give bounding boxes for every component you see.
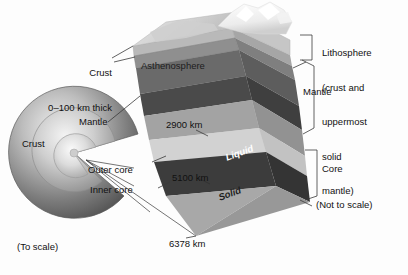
- not-to-scale-label: (Not to scale): [316, 199, 373, 211]
- outer-core-label: Outer core: [88, 164, 133, 176]
- crust-thickness-line2: 0–100 km thick: [8, 102, 112, 114]
- inner-core-label: Inner core: [90, 184, 133, 196]
- core-right-label: Core: [322, 163, 343, 175]
- lithosphere-line5: mantle): [322, 185, 406, 197]
- lithosphere-line3: uppermost: [322, 116, 406, 128]
- asthenosphere-label: Asthenosphere: [141, 60, 205, 71]
- mantle-right-label: Mantle: [303, 86, 332, 98]
- depth-2900-label: 2900 km: [166, 119, 202, 131]
- lithosphere-line2: (crust and: [322, 82, 406, 94]
- mantle-left-label: Mantle: [79, 116, 108, 128]
- depth-5100-label: 5100 km: [172, 172, 208, 184]
- to-scale-label: (To scale): [17, 241, 58, 253]
- crust-sphere-label: Crust: [22, 138, 45, 150]
- lithosphere-label: Lithosphere (crust and uppermost solid m…: [322, 24, 406, 220]
- depth-6378-label: 6378 km: [169, 238, 205, 250]
- crust-thickness-line1: Crust: [8, 67, 112, 79]
- earth-structure-diagram: Crust 0–100 km thick Mantle Crust Outer …: [0, 0, 408, 275]
- lithosphere-line4: solid: [322, 151, 406, 163]
- lithosphere-line1: Lithosphere: [322, 47, 406, 59]
